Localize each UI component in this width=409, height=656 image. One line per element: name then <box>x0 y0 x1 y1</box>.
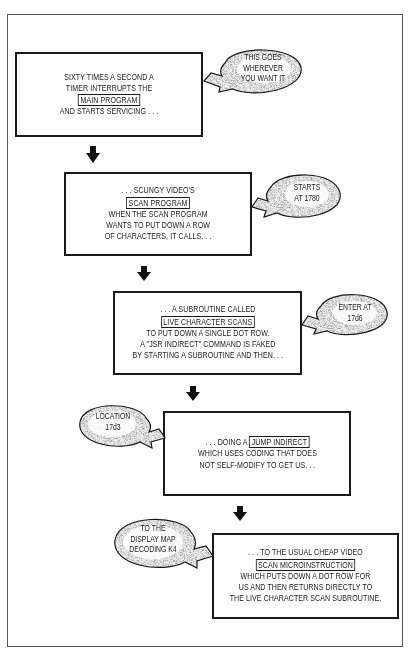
step-box-main-program: SIXTY TIMES A SECOND ATIMER INTERRUPTS T… <box>15 52 203 137</box>
callout-text: THIS GOESWHEREVERYOU WANT IT <box>238 52 289 84</box>
step-text-line: WANTS TO PUT DOWN A ROW <box>105 220 212 231</box>
step-text-line: TO PUT DOWN A SINGLE DOT ROW. <box>132 328 283 339</box>
step-text: . . . DOING A JUMP INDIRECTWHICH USES CO… <box>198 436 317 471</box>
step-text: . . . SCUNGY VIDEO'SSCAN PROGRAMWHEN THE… <box>105 185 212 242</box>
callout-text: ENTER AT17d6 <box>335 302 374 323</box>
callout-text: TO THEDISPLAY MAPDECODING K4 <box>128 523 179 555</box>
step-text-line: . . . SCUNGY VIDEO'S <box>105 185 212 196</box>
step-text-prefix: . . . DOING A <box>205 437 249 447</box>
callout-text: STARTSAT 1780 <box>288 182 326 203</box>
highlighted-term: SCAN PROGRAM <box>126 197 190 209</box>
down-arrow-icon <box>137 266 151 281</box>
step-text-line: BY STARTING A SUBROUTINE AND THEN. . . <box>132 350 283 361</box>
callout-text-line: YOU WANT IT <box>238 73 289 84</box>
step-text-line: A "JSR INDIRECT" COMMAND IS FAKED <box>132 339 283 350</box>
callout-text-line: ENTER AT <box>335 302 374 313</box>
callout-text-line: TO THE <box>128 523 179 534</box>
step-text-line: . . . DOING A JUMP INDIRECT <box>198 436 317 448</box>
step-text-line: LIVE CHARACTER SCANS <box>132 316 283 328</box>
step-box-scan-program: . . . SCUNGY VIDEO'SSCAN PROGRAMWHEN THE… <box>64 172 252 256</box>
highlighted-term: JUMP INDIRECT <box>249 436 309 448</box>
callout-text-line: THIS GOES <box>238 52 289 63</box>
step-text: . . . TO THE USUAL CHEAP VIDEOSCAN MICRO… <box>230 547 382 604</box>
highlighted-term: MAIN PROGRAM <box>78 94 140 106</box>
step-text-line: SCAN MICROINSTRUCTION <box>230 559 382 571</box>
callout-text-line: AT 1780 <box>288 193 326 204</box>
callout-text-line: 17d6 <box>335 313 374 324</box>
down-arrow-icon <box>186 386 200 401</box>
step-text-line: WHICH USES CODING THAT DOES <box>198 448 317 459</box>
step-text-line: SIXTY TIMES A SECOND A <box>60 72 158 83</box>
step-text-line: TIMER INTERRUPTS THE <box>60 83 158 94</box>
callout-text-line: DECODING K4 <box>128 544 179 555</box>
step-text: SIXTY TIMES A SECOND ATIMER INTERRUPTS T… <box>60 72 158 118</box>
highlighted-term: LIVE CHARACTER SCANS <box>161 316 255 328</box>
step-text-line: NOT SELF-MODIFY TO GET US. . . <box>198 460 317 471</box>
callout-text-line: DISPLAY MAP <box>128 534 179 545</box>
step-text-line: MAIN PROGRAM <box>60 94 158 106</box>
step-text-line: AND STARTS SERVICING . . . <box>60 106 158 117</box>
step-text-line: SCAN PROGRAM <box>105 197 212 209</box>
down-arrow-icon <box>86 146 100 163</box>
step-text-line: OF CHARACTERS, IT CALLS. . . <box>105 231 212 242</box>
step-text-line: . . . A SUBROUTINE CALLED <box>132 304 283 315</box>
step-text-line: WHICH PUTS DOWN A DOT ROW FOR <box>230 571 382 582</box>
step-box-live-character-scans: . . . A SUBROUTINE CALLEDLIVE CHARACTER … <box>113 291 302 375</box>
step-box-jump-indirect: . . . DOING A JUMP INDIRECTWHICH USES CO… <box>163 411 351 496</box>
step-text: . . . A SUBROUTINE CALLEDLIVE CHARACTER … <box>132 304 283 361</box>
step-box-scan-microinstruction: . . . TO THE USUAL CHEAP VIDEOSCAN MICRO… <box>212 533 399 619</box>
step-text-line: . . . TO THE USUAL CHEAP VIDEO <box>230 547 382 558</box>
callout-text-line: STARTS <box>288 182 326 193</box>
callout-text-line: LOCATION <box>94 411 132 422</box>
down-arrow-icon <box>233 506 247 521</box>
highlighted-term: SCAN MICROINSTRUCTION <box>256 559 356 571</box>
step-text-line: THE LIVE CHARACTER SCAN SUBROUTINE. <box>230 593 382 604</box>
callout-text-line: WHEREVER <box>238 63 289 74</box>
callout-text-line: 17d3 <box>94 422 132 433</box>
step-text-line: US AND THEN RETURNS DIRECTLY TO <box>230 582 382 593</box>
step-text-line: WHEN THE SCAN PROGRAM <box>105 209 212 220</box>
callout-text: LOCATION17d3 <box>94 411 132 432</box>
